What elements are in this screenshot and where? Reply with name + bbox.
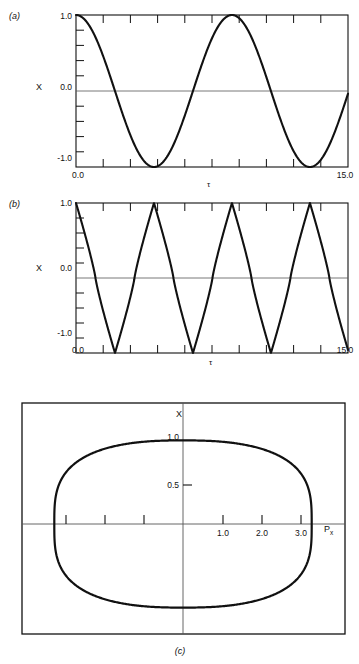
- panel-a-plot: [0, 0, 359, 196]
- panel-c-frame: [22, 403, 345, 634]
- panel-b: (b) X 1.0 0.0 -1.0 0.0 15.0 τ: [0, 190, 359, 380]
- panel-b-plot: [0, 190, 359, 380]
- panel-b-top-ticks: [103, 203, 321, 211]
- panel-b-bottom-ticks: [103, 345, 321, 353]
- panel-a-top-ticks: [103, 15, 321, 23]
- panel-c: X 1.0 0.5 1.0 2.0 3.0 Px: [0, 390, 359, 664]
- panel-c-plot: [0, 390, 359, 664]
- panel-c-caption: (c): [175, 646, 186, 656]
- panel-a: (a) X 1.0 0.0 -1.0 0.0 15.0 τ: [0, 0, 359, 196]
- panel-a-bottom-ticks: [103, 159, 321, 167]
- panel-c-x-ticks: [66, 515, 301, 524]
- figure-container: (a) X 1.0 0.0 -1.0 0.0 15.0 τ: [0, 0, 359, 664]
